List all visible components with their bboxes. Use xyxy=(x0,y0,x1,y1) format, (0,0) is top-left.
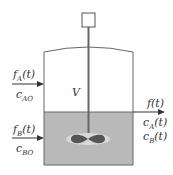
volume-label: V xyxy=(72,87,80,98)
feed-a-conc-label: cAO xyxy=(16,89,33,103)
feed-b-flow-label: fB(t) xyxy=(13,124,35,138)
feed-b-arrow-icon xyxy=(37,135,44,141)
feed-a-arrow-icon xyxy=(37,81,44,87)
feed-a-flow-label: fA(t) xyxy=(13,69,35,83)
motor-box xyxy=(82,13,95,27)
feed-b-conc-label: cBO xyxy=(16,143,33,157)
out-conc-b-label: cB(t) xyxy=(143,131,167,145)
out-flow-label: f(t) xyxy=(147,98,164,109)
